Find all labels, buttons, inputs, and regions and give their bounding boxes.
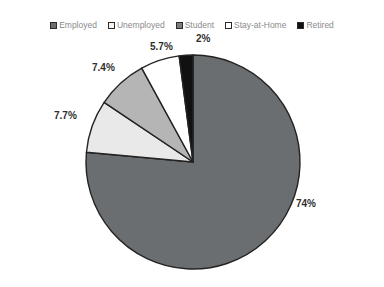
pie-chart-svg (0, 0, 384, 287)
pie-label-stayathome: 5.7% (150, 41, 173, 52)
pie-chart: 2% 5.7% 7.4% 7.7% 74% (0, 0, 384, 287)
pie-slice-group (86, 55, 300, 269)
pie-label-student: 7.4% (92, 62, 115, 73)
pie-label-unemployed: 7.7% (54, 110, 77, 121)
pie-label-retired: 2% (196, 33, 210, 44)
pie-label-employed: 74% (296, 198, 316, 209)
